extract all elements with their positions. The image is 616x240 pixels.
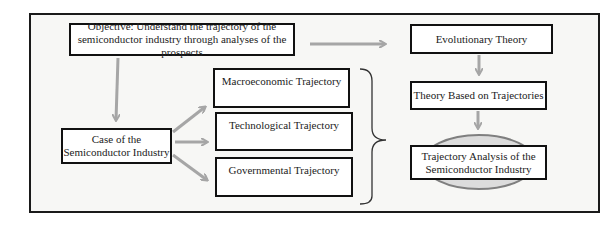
macroeconomic-trajectory-box: Macroeconomic Trajectory xyxy=(213,68,350,108)
evolutionary-theory-box: Evolutionary Theory xyxy=(410,24,553,54)
objective-box: Objective: Understand the trajectory of … xyxy=(69,23,295,56)
macroeconomic-trajectory-text: Macroeconomic Trajectory xyxy=(222,70,341,88)
theory-based-on-trajectories-box: Theory Based on Trajectories xyxy=(410,81,547,110)
technological-trajectory-text: Technological Trajectory xyxy=(229,114,339,132)
case-box: Case of the Semiconductor Industry xyxy=(61,128,172,164)
case-text: Case of the Semiconductor Industry xyxy=(63,133,170,159)
technological-trajectory-box: Technological Trajectory xyxy=(215,112,353,151)
trajectory-analysis-box: Trajectory Analysis of the Semiconductor… xyxy=(410,145,547,180)
objective-text: Objective: Understand the trajectory of … xyxy=(71,20,293,59)
theory-based-on-trajectories-text: Theory Based on Trajectories xyxy=(414,89,544,102)
trajectory-analysis-text: Trajectory Analysis of the Semiconductor… xyxy=(412,150,545,176)
arrow-objective-to-case xyxy=(116,58,118,120)
evolutionary-theory-text: Evolutionary Theory xyxy=(436,33,528,46)
arrow-case-to-gov xyxy=(173,155,207,180)
governmental-trajectory-box: Governmental Trajectory xyxy=(215,157,353,197)
grouping-brace xyxy=(360,69,386,204)
governmental-trajectory-text: Governmental Trajectory xyxy=(229,159,340,177)
arrow-case-to-macro xyxy=(173,107,205,132)
